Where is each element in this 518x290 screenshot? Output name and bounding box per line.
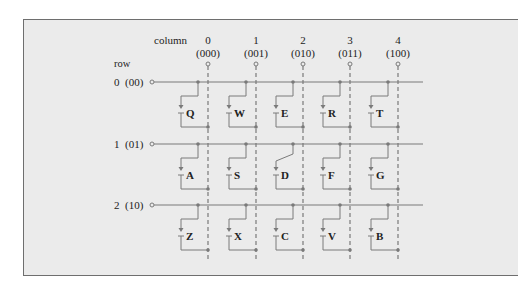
column-code-label: (010) (291, 47, 315, 60)
key-switch-c: C (273, 203, 305, 252)
column-terminal-icon (206, 62, 210, 66)
switch-arrow-icon (227, 167, 232, 171)
switch-arrow-icon (274, 228, 279, 232)
column-junction-dot (348, 187, 352, 191)
column-1: 1(001) (244, 34, 268, 262)
key-label: V (328, 230, 336, 242)
column-2: 2(010) (291, 34, 315, 262)
key-label: E (281, 107, 288, 119)
row-label: 0 (00) (114, 76, 144, 89)
key-label: T (376, 107, 384, 119)
key-switch-f: F (320, 142, 352, 191)
key-label: W (234, 107, 245, 119)
column-3: 3(011) (338, 34, 362, 262)
key-switch-x: X (226, 203, 258, 252)
switch-arrow-icon (179, 105, 184, 109)
row-2: 2 (10) (114, 199, 423, 212)
column-junction-dot (396, 248, 400, 252)
column-junction-dot (301, 187, 305, 191)
key-label: Z (186, 230, 193, 242)
column-junction-dot (254, 248, 258, 252)
switch-arrow-icon (274, 167, 279, 171)
key-label: X (234, 230, 242, 242)
column-junction-dot (206, 248, 210, 252)
column-junction-dot (206, 125, 210, 129)
column-0: 0(000) (196, 34, 220, 262)
column-junction-dot (301, 248, 305, 252)
key-label: C (281, 230, 289, 242)
column-code-label: (000) (196, 47, 220, 60)
row-terminal-icon (150, 203, 154, 207)
column-junction-dot (301, 125, 305, 129)
switch-group: QWERTASDFGZXCVB (178, 80, 400, 252)
key-switch-g: G (368, 142, 400, 191)
switch-arrow-icon (369, 105, 374, 109)
key-label: B (376, 230, 384, 242)
key-switch-z: Z (178, 203, 210, 252)
column-index-label: 2 (300, 34, 306, 46)
switch-arrow-icon (179, 228, 184, 232)
column-4: 4(100) (386, 34, 410, 262)
column-junction-dot (348, 248, 352, 252)
key-label: A (186, 169, 194, 181)
row-1: 1 (01) (114, 138, 423, 151)
key-label: D (281, 169, 289, 181)
key-switch-t: T (368, 80, 400, 129)
key-label: R (328, 107, 337, 119)
column-junction-dot (254, 187, 258, 191)
key-switch-r: R (320, 80, 352, 129)
key-switch-w: W (226, 80, 258, 129)
row-terminal-icon (150, 142, 154, 146)
switch-arrow-icon (227, 228, 232, 232)
key-label: F (328, 169, 335, 181)
column-index-label: 1 (253, 34, 259, 46)
column-index-label: 3 (347, 34, 353, 46)
column-terminal-icon (254, 62, 258, 66)
key-label: G (376, 169, 385, 181)
key-switch-s: S (226, 142, 258, 191)
row-label: 2 (10) (114, 199, 144, 212)
column-group: 0(000)1(001)2(010)3(011)4(100) (196, 34, 410, 262)
key-switch-v: V (320, 203, 352, 252)
column-junction-dot (254, 125, 258, 129)
switch-arrow-icon (321, 228, 326, 232)
column-index-label: 4 (395, 34, 401, 46)
column-index-label: 0 (205, 34, 211, 46)
switch-arrow-icon (321, 105, 326, 109)
row-header: row (114, 58, 131, 69)
column-junction-dot (206, 187, 210, 191)
row-terminal-icon (150, 80, 154, 84)
key-label: Q (186, 107, 195, 119)
key-switch-d: D (273, 142, 305, 191)
column-code-label: (001) (244, 47, 268, 60)
switch-arrow-icon (274, 105, 279, 109)
row-0: 0 (00) (114, 76, 423, 89)
column-terminal-icon (396, 62, 400, 66)
column-junction-dot (348, 125, 352, 129)
column-terminal-icon (348, 62, 352, 66)
key-switch-e: E (273, 80, 305, 129)
key-switch-b: B (368, 203, 400, 252)
key-label: S (234, 169, 240, 181)
key-switch-a: A (178, 142, 210, 191)
column-junction-dot (396, 125, 400, 129)
column-code-label: (100) (386, 47, 410, 60)
switch-arrow-icon (227, 105, 232, 109)
column-terminal-icon (301, 62, 305, 66)
column-header: column (154, 34, 187, 46)
switch-arrow-icon (179, 167, 184, 171)
switch-arrow-icon (321, 167, 326, 171)
key-switch-q: Q (178, 80, 210, 129)
switch-arrow-icon (369, 167, 374, 171)
column-junction-dot (396, 187, 400, 191)
row-label: 1 (01) (114, 138, 144, 151)
switch-arrow-icon (369, 228, 374, 232)
column-code-label: (011) (338, 47, 362, 60)
